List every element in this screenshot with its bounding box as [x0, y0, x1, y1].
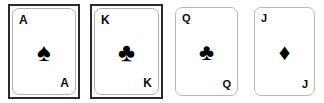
playing-card-jack-of-diamonds[interactable]: J ♦ J: [254, 7, 315, 96]
card-rank-bottom-right: Q: [222, 79, 231, 90]
card-rank-top-left: A: [19, 14, 28, 26]
playing-card-ace-of-spades[interactable]: A ♠ A: [8, 4, 80, 99]
card-rank-bottom-right: J: [302, 79, 308, 90]
card-rank-bottom-right: K: [143, 77, 152, 89]
card-face: J ♦ J: [254, 7, 315, 96]
playing-card-row: A ♠ A K ♣ K Q ♣ Q J ♦ J: [0, 0, 324, 103]
card-rank-top-left: J: [261, 13, 267, 24]
card-face: K ♣ K: [94, 8, 159, 95]
playing-card-queen-of-clubs[interactable]: Q ♣ Q: [175, 7, 238, 96]
card-rank-bottom-right: A: [60, 77, 69, 89]
club-icon: ♣: [176, 40, 237, 63]
club-icon: ♣: [95, 39, 158, 65]
spade-icon: ♠: [13, 39, 75, 65]
card-rank-top-left: Q: [182, 13, 191, 24]
card-face: A ♠ A: [12, 8, 76, 95]
playing-card-king-of-clubs[interactable]: K ♣ K: [90, 4, 163, 99]
diamond-icon: ♦: [255, 40, 314, 63]
card-rank-top-left: K: [101, 14, 110, 26]
card-face: Q ♣ Q: [175, 7, 238, 96]
